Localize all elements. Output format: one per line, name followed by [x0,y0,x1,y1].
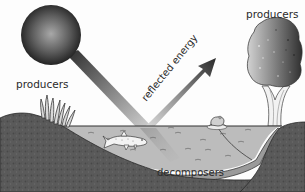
sun-icon [21,5,81,65]
producers-label-left: producers [16,79,69,90]
frog-icon [207,116,227,129]
decomposers-label: decomposers [157,168,224,178]
tree-icon [247,18,302,87]
incoming-light-beam [68,50,153,131]
producers-label-right: producers [246,9,299,20]
pond-ecosystem-diagram: producers producers reflected energy dec… [0,0,305,192]
tree-trunk [262,86,290,126]
